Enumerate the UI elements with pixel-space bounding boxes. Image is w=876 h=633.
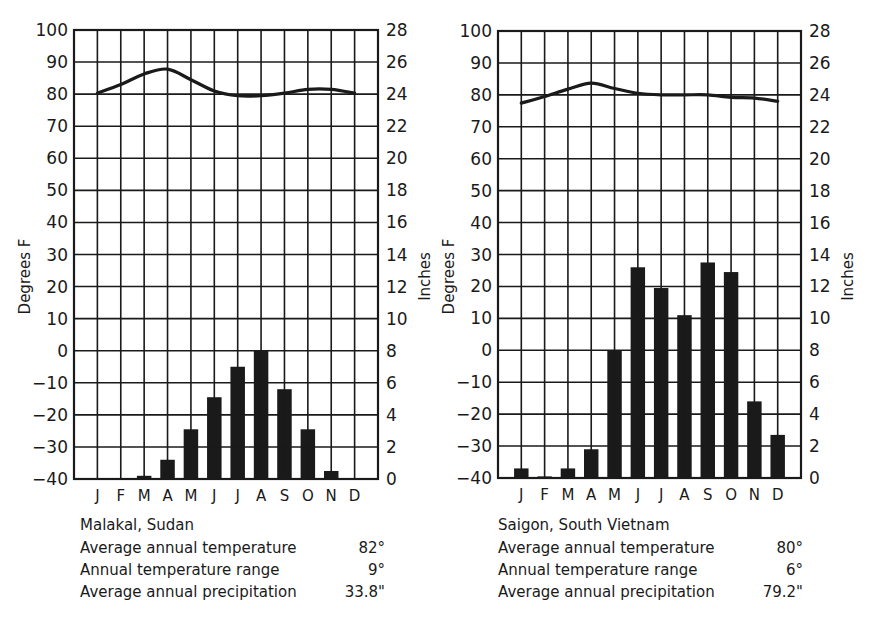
y-tick-label: 60	[470, 149, 492, 169]
month-label: J	[658, 486, 663, 504]
station-name: Saigon, South Vietnam	[498, 514, 803, 536]
month-label: A	[679, 486, 690, 504]
month-label: M	[608, 486, 621, 504]
caption-saigon: Saigon, South Vietnam Average annual tem…	[498, 514, 803, 603]
y-tick-label: −10	[32, 373, 68, 393]
y-tick-label: 10	[46, 309, 68, 329]
month-label: S	[280, 487, 290, 505]
month-label: O	[725, 486, 737, 504]
y-tick-label: 30	[46, 245, 68, 265]
right-axis-ticks: 2826242220181614121086420	[809, 21, 831, 488]
month-label: J	[635, 486, 640, 504]
y-tick-label: −10	[456, 372, 492, 392]
month-label: A	[586, 486, 597, 504]
y2-tick-label: 20	[809, 149, 831, 169]
y-tick-label: 60	[46, 148, 68, 168]
month-label: A	[256, 487, 267, 505]
y-tick-label: −20	[32, 405, 68, 425]
month-label: D	[772, 486, 784, 504]
y2-tick-label: 28	[809, 21, 831, 41]
y2-tick-label: 26	[386, 52, 408, 72]
month-label: J	[211, 487, 216, 505]
month-labels: JFMAMJJASOND	[94, 487, 360, 505]
y-tick-label: 40	[46, 212, 68, 232]
y2-tick-label: 12	[386, 277, 408, 297]
y-tick-label: 20	[46, 277, 68, 297]
y-tick-label: 90	[46, 52, 68, 72]
y-axis-title: Degrees F	[440, 239, 458, 315]
y-tick-label: 20	[470, 276, 492, 296]
y2-tick-label: 14	[809, 245, 831, 265]
stat-row-precip: Average annual precipitation 33.8"	[80, 581, 385, 603]
y-tick-label: 100	[36, 20, 68, 40]
month-label: A	[162, 487, 173, 505]
y2-tick-label: 12	[809, 276, 831, 296]
y2-tick-label: 2	[386, 437, 397, 457]
y2-tick-label: 10	[386, 309, 408, 329]
stat-value: 6°	[743, 559, 803, 581]
y-tick-label: −30	[32, 437, 68, 457]
y2-tick-label: 16	[386, 212, 408, 232]
temperature-line	[521, 83, 777, 103]
month-label: D	[349, 487, 361, 505]
y2-axis-title: Inches	[416, 252, 434, 301]
month-labels: JFMAMJJASOND	[518, 486, 783, 504]
grid	[74, 30, 378, 479]
y2-tick-label: 10	[809, 308, 831, 328]
stat-label: Annual temperature range	[498, 559, 743, 581]
y-axis-title: Degrees F	[16, 239, 34, 315]
y2-tick-label: 4	[386, 405, 397, 425]
temperature-line	[97, 69, 354, 96]
month-label: M	[138, 487, 151, 505]
y-tick-label: −30	[456, 436, 492, 456]
y2-tick-label: 24	[809, 85, 831, 105]
chart-saigon: 1009080706050403020100−10−20−30−40282624…	[440, 21, 857, 504]
stat-row-temp-range: Annual temperature range 6°	[498, 559, 803, 581]
y-tick-label: −20	[456, 404, 492, 424]
stat-row-temp-range: Annual temperature range 9°	[80, 559, 385, 581]
month-label: M	[561, 486, 574, 504]
y2-tick-label: 20	[386, 148, 408, 168]
left-axis-ticks: 1009080706050403020100−10−20−30−40	[456, 21, 492, 488]
y-tick-label: 80	[470, 85, 492, 105]
y-tick-label: 50	[46, 180, 68, 200]
caption-malakal: Malakal, Sudan Average annual temperatur…	[80, 514, 385, 603]
y2-tick-label: 2	[809, 436, 820, 456]
stat-label: Average annual precipitation	[80, 581, 325, 603]
y-tick-label: −40	[32, 469, 68, 489]
y2-tick-label: 14	[386, 245, 408, 265]
y-tick-label: 0	[57, 341, 68, 361]
month-label: J	[234, 487, 239, 505]
y2-tick-label: 22	[809, 117, 831, 137]
month-label: J	[94, 487, 99, 505]
y2-tick-label: 22	[386, 116, 408, 136]
y2-tick-label: 26	[809, 53, 831, 73]
stat-row-avg-temp: Average annual temperature 80°	[498, 537, 803, 559]
y-tick-label: 70	[470, 117, 492, 137]
y-tick-label: 50	[470, 181, 492, 201]
y2-tick-label: 24	[386, 84, 408, 104]
y-tick-label: 80	[46, 84, 68, 104]
month-label: F	[116, 487, 125, 505]
y2-tick-label: 8	[809, 340, 820, 360]
y2-tick-label: 6	[386, 373, 397, 393]
stat-value: 79.2"	[743, 581, 803, 603]
y-tick-label: 100	[460, 21, 492, 41]
stat-row-avg-temp: Average annual temperature 82°	[80, 537, 385, 559]
y2-axis-title: Inches	[839, 252, 857, 301]
chart-malakal: 1009080706050403020100−10−20−30−40282624…	[16, 20, 434, 505]
y2-tick-label: 0	[386, 469, 397, 489]
stat-label: Average annual precipitation	[498, 581, 743, 603]
stat-label: Annual temperature range	[80, 559, 325, 581]
y2-tick-label: 28	[386, 20, 408, 40]
month-label: M	[184, 487, 197, 505]
month-label: N	[749, 486, 760, 504]
stat-value: 9°	[325, 559, 385, 581]
y2-tick-label: 16	[809, 213, 831, 233]
month-label: N	[326, 487, 337, 505]
y2-tick-label: 18	[386, 180, 408, 200]
station-name: Malakal, Sudan	[80, 514, 385, 536]
month-label: O	[302, 487, 314, 505]
left-axis-ticks: 1009080706050403020100−10−20−30−40	[32, 20, 68, 489]
y-tick-label: 0	[481, 340, 492, 360]
